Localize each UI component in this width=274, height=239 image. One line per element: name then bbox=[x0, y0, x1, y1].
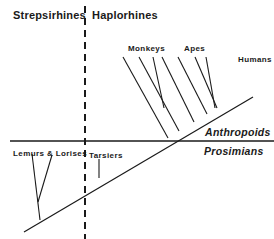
monkey-branch-2 bbox=[139, 57, 179, 131]
lemur-branch-stem bbox=[32, 154, 40, 220]
loris-branch bbox=[38, 155, 52, 202]
label-anthropoids: Anthropoids bbox=[205, 126, 271, 138]
ape-branch-1 bbox=[162, 57, 194, 122]
ape-branch-4 bbox=[206, 57, 215, 108]
label-apes: Apes bbox=[184, 44, 205, 53]
monkey-branch-3 bbox=[153, 57, 164, 108]
header-haplorhines: Haplorhines bbox=[92, 9, 158, 21]
cladogram bbox=[0, 0, 274, 239]
label-prosimians: Prosimians bbox=[204, 145, 264, 157]
label-humans: Humans bbox=[238, 55, 272, 64]
main-trunk bbox=[24, 97, 253, 232]
header-strepsirhines: Strepsirhines bbox=[13, 9, 86, 21]
label-lemurs-lorises: Lemurs & Lorises bbox=[13, 149, 87, 158]
ape-branch-2 bbox=[178, 57, 207, 114]
label-monkeys: Monkeys bbox=[128, 44, 165, 53]
label-tarsiers: Tarsiers bbox=[89, 151, 123, 160]
